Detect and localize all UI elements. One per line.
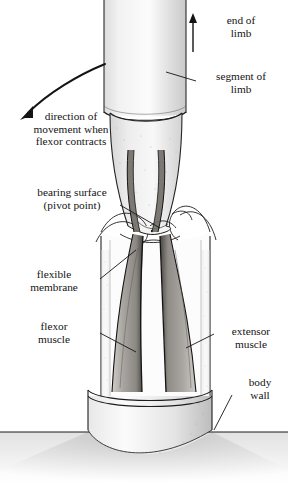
figure-canvas: end of limb segment of limb direction of… [0, 0, 288, 484]
label-body-wall: body wall [234, 376, 286, 401]
label-segment-of-limb: segment of limb [197, 70, 285, 95]
label-flexor-muscle: flexor muscle [6, 320, 102, 345]
label-bearing-surface: bearing surface (pivot point) [6, 186, 138, 211]
label-direction-of-movement: direction of movement when flexor contra… [10, 110, 132, 148]
label-end-of-limb: end of limb [201, 14, 281, 39]
leader-body-wall [214, 395, 232, 430]
label-flexible-membrane: flexible membrane [6, 268, 102, 293]
stipple-tube-right [201, 250, 210, 396]
label-extensor-muscle: extensor muscle [216, 325, 286, 350]
limb-segment-upper [104, 0, 186, 120]
end-of-limb-arrow [189, 13, 197, 52]
